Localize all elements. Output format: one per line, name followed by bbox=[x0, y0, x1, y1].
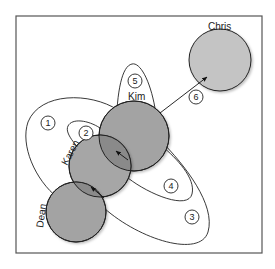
svg-text:1: 1 bbox=[45, 118, 50, 128]
circle-chris bbox=[189, 29, 251, 91]
relationship-diagram: Chris Kim Karen Dean 1 2 3 4 5 6 bbox=[0, 0, 275, 269]
svg-text:2: 2 bbox=[83, 128, 88, 138]
marker-3: 3 bbox=[185, 210, 199, 224]
svg-text:3: 3 bbox=[189, 212, 194, 222]
marker-2: 2 bbox=[79, 126, 93, 140]
svg-text:6: 6 bbox=[193, 92, 198, 102]
svg-text:4: 4 bbox=[168, 181, 173, 191]
svg-text:5: 5 bbox=[132, 76, 137, 86]
marker-1: 1 bbox=[41, 116, 55, 130]
marker-6: 6 bbox=[189, 90, 203, 104]
label-chris: Chris bbox=[208, 21, 231, 32]
label-kim: Kim bbox=[128, 91, 145, 102]
marker-5: 5 bbox=[128, 74, 142, 88]
marker-4: 4 bbox=[164, 179, 178, 193]
